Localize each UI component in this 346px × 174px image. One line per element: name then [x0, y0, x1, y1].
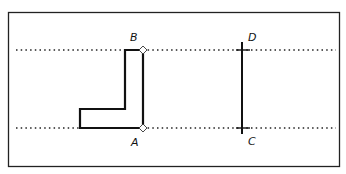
label-c: C: [248, 135, 256, 148]
label-b: B: [130, 31, 138, 44]
point-b-marker: [139, 46, 147, 54]
label-d: D: [248, 31, 256, 44]
label-a: A: [130, 136, 139, 149]
frame-border: [9, 13, 340, 167]
point-a-marker: [139, 124, 147, 132]
diagram-canvas: B A D C: [0, 0, 346, 174]
l-shaped-figure: [80, 50, 143, 128]
